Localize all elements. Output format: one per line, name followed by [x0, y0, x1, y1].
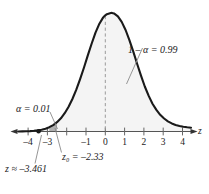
- x-tick-label-minus-4: –4: [23, 138, 33, 148]
- x-tick-label-1: 1: [122, 138, 127, 148]
- x-tick-label-4: 4: [180, 138, 185, 148]
- annotation-alpha-level: α = 0.01: [16, 104, 51, 114]
- annotation-z-critical-text: z₀ = –2.33: [62, 151, 104, 162]
- annotation-z-statistic-text: z ≈ –3.461: [5, 163, 47, 174]
- annotation-z-statistic: z ≈ –3.461: [5, 164, 47, 174]
- x-tick-label-2: 2: [142, 138, 147, 148]
- annotation-z-critical: z₀ = –2.33: [62, 152, 104, 162]
- leader-line-z-statistic: [35, 135, 42, 164]
- annotation-alpha-text: α = 0.01: [16, 103, 51, 114]
- normal-distribution-figure: –4 –3 –1 0 1 2 3 4 z 1 – α = 0.99 α = 0.…: [0, 0, 209, 194]
- x-tick-label-minus-3: –3: [43, 138, 53, 148]
- x-axis-right-arrow: [191, 129, 198, 134]
- x-tick-label-0: 0: [103, 138, 108, 148]
- curve-fill-area: [19, 13, 192, 132]
- x-axis-left-arrow: [11, 129, 18, 134]
- x-tick-label-3: 3: [161, 138, 166, 148]
- annotation-confidence-level: 1 – α = 0.99: [128, 45, 178, 55]
- test-statistic-marker: [36, 129, 41, 134]
- annotation-confidence-text: 1 – α = 0.99: [128, 44, 178, 55]
- x-axis-label-z: z: [198, 127, 202, 137]
- x-tick-label-minus-1: –1: [81, 138, 91, 148]
